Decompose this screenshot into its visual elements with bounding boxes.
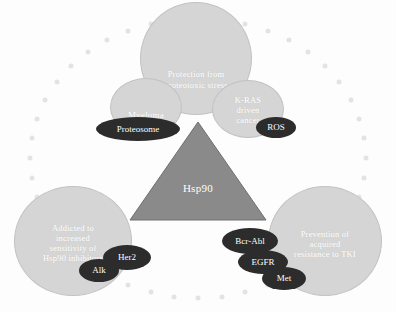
ring-dot (126, 283, 131, 288)
hsp90-label: Hsp90 (128, 182, 268, 194)
ring-dot (148, 290, 153, 295)
pill-her2-label: Her2 (118, 253, 136, 262)
pill-alk-label: Alk (92, 266, 106, 275)
bubble-kras-label: K-RAS driven cancer (235, 93, 262, 125)
ring-dot (243, 290, 248, 295)
ring-dot (29, 175, 34, 180)
ring-dot (322, 64, 327, 69)
bubble-addicted-label: Addicted to increased sensitivity of Hsp… (43, 219, 103, 263)
ring-dot (69, 64, 74, 69)
pill-proteosome-label: Proteosome (117, 125, 160, 134)
ring-dot (364, 156, 369, 161)
pill-ros-label: ROS (267, 123, 285, 132)
pill-bcr-abl-label: Bcr-Abl (235, 237, 264, 246)
bubble-prevention-label: Prevention of acquired resistance to TKI (294, 223, 356, 259)
ring-dot (43, 97, 48, 102)
ring-dot (85, 50, 90, 55)
ring-dot (105, 38, 110, 43)
ring-dot (337, 80, 342, 85)
ring-dot (306, 50, 311, 55)
ring-dot (126, 28, 131, 33)
pill-alk: Alk (79, 259, 119, 282)
bubble-addicted-to-increased-sensitivity: Addicted to increased sensitivity of Hsp… (14, 186, 132, 296)
ring-dot (28, 156, 33, 161)
ring-dot (265, 28, 270, 33)
hsp90-diagram: Protection from proteotoxic stress Hsp90… (0, 0, 396, 312)
pill-egfr-label: EGFR (251, 258, 274, 267)
pill-met-label: Met (277, 274, 292, 283)
ring-dot (172, 294, 177, 299)
ring-dot (34, 116, 39, 121)
ring-dot (196, 296, 201, 301)
bubble-protection-label: Protection from proteotoxic stress (164, 27, 227, 89)
ring-dot (357, 116, 362, 121)
pill-proteosome: Proteosome (96, 117, 180, 141)
ring-dot (29, 136, 34, 141)
ring-dot (348, 97, 353, 102)
ring-dot (362, 136, 367, 141)
ring-dot (286, 38, 291, 43)
pill-met: Met (262, 267, 306, 290)
pill-ros: ROS (256, 117, 296, 138)
ring-dot (243, 21, 248, 26)
ring-dot (54, 80, 59, 85)
ring-dot (362, 175, 367, 180)
ring-dot (219, 294, 224, 299)
